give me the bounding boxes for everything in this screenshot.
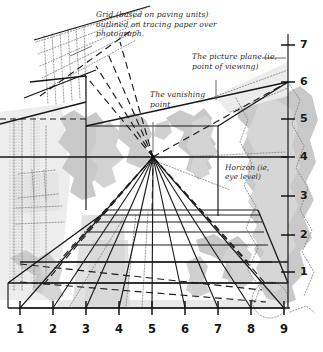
vertical-tick-2: 2 <box>300 228 308 241</box>
vertical-tick-1: 1 <box>300 265 308 278</box>
baseline-tick-4: 4 <box>115 322 123 336</box>
vertical-tick-5: 5 <box>300 112 308 125</box>
annotation-grid-note: Grid (based on paving units) outlined on… <box>96 10 220 39</box>
perspective-diagram: Grid (based on paving units) outlined on… <box>0 0 323 352</box>
annotation-vanishing-point: The vanishing point <box>150 90 222 109</box>
vertical-tick-6: 6 <box>300 75 308 88</box>
annotation-horizon: Horizon (ie, eye level) <box>225 163 287 181</box>
vertical-tick-7: 7 <box>300 38 308 51</box>
vertical-tick-4: 4 <box>300 150 308 163</box>
baseline-tick-5: 5 <box>148 322 156 336</box>
baseline-tick-7: 7 <box>214 322 222 336</box>
vanishing-point-marker <box>151 155 155 159</box>
annotation-picture-plane: The picture plane (ie, point of viewing) <box>192 52 288 71</box>
baseline-tick-6: 6 <box>181 322 189 336</box>
baseline-tick-8: 8 <box>247 322 255 336</box>
baseline-tick-3: 3 <box>82 322 90 336</box>
baseline-tick-9: 9 <box>280 322 288 336</box>
vertical-tick-3: 3 <box>300 189 308 202</box>
baseline-tick-2: 2 <box>49 322 57 336</box>
baseline-tick-1: 1 <box>16 322 24 336</box>
